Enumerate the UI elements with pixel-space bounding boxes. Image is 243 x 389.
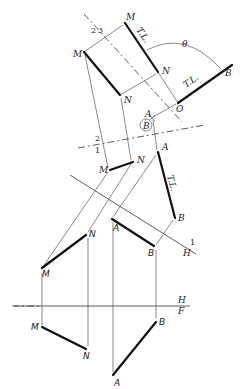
label-B-aux3: B: [224, 68, 232, 78]
projector: [156, 220, 173, 245]
label-fold-H: H: [177, 295, 186, 305]
label-O: O: [176, 104, 184, 114]
line-MN-top: [42, 235, 86, 268]
label-A-top: A: [112, 223, 119, 233]
label-theta: θ: [182, 39, 188, 49]
projector: [121, 98, 131, 160]
projector: [42, 172, 108, 268]
line-MN-front: [42, 327, 86, 349]
projector: [158, 72, 178, 103]
label-TL-OB: T.L.: [181, 72, 200, 90]
projector: [113, 155, 156, 217]
label-B-front: B: [159, 317, 165, 327]
label-fold-2-top: 2: [91, 26, 96, 35]
projector: [153, 104, 176, 117]
label-fold-1: 1: [95, 146, 100, 155]
label-M-aux3: M: [125, 12, 136, 22]
projector: [120, 74, 156, 95]
label-M-aux1: M: [98, 165, 109, 175]
line-AB-front: [113, 322, 156, 375]
label-fold-F: F: [177, 306, 185, 316]
label-A-front: A: [113, 378, 120, 388]
label-N-aux1: N: [136, 155, 146, 165]
label-fold-1-H: 1: [190, 238, 195, 247]
label-M-aux2: M: [72, 49, 83, 59]
label-B-pointview: B: [142, 121, 150, 131]
label-M-top: M: [42, 269, 50, 279]
label-A-aux1: A: [161, 142, 169, 152]
label-fold-3: 3: [98, 26, 103, 35]
label-M-front: M: [31, 322, 39, 332]
label-N-aux2: N: [123, 95, 133, 105]
label-B-aux1: B: [177, 213, 185, 223]
label-fold-H-1: H: [182, 248, 191, 258]
label-A-aux2: A: [144, 109, 152, 119]
projector: [88, 164, 131, 232]
label-N-aux3: N: [161, 66, 171, 76]
label-N-front: N: [83, 351, 90, 361]
projector: [153, 120, 157, 150]
projector: [84, 25, 123, 52]
label-fold-2: 2: [95, 134, 100, 143]
label-B-top: B: [148, 248, 154, 258]
line-MN-aux2: [84, 52, 120, 95]
label-N-top: N: [89, 229, 96, 239]
descriptive-geometry-diagram: M M N N O B θ T.L. T.L. 2 3 A B 2 1 M N …: [0, 0, 243, 389]
